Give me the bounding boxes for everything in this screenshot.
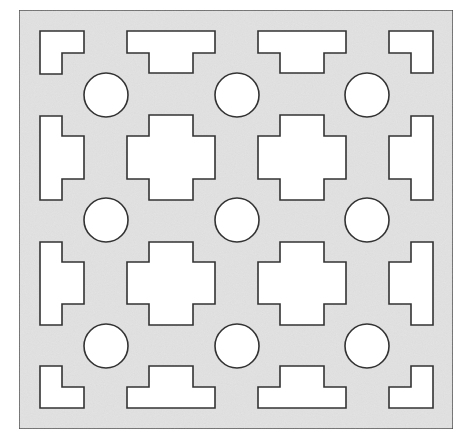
perforations xyxy=(40,31,433,408)
circle-cutout-4 xyxy=(84,198,128,242)
circle-cutout-7 xyxy=(84,324,128,368)
circle-cutout-9 xyxy=(345,324,389,368)
circle-cutout-6 xyxy=(345,198,389,242)
circle-cutout-3 xyxy=(345,73,389,117)
perforated-panel-diagram xyxy=(0,0,461,435)
circle-cutout-8 xyxy=(215,324,259,368)
circle-cutout-5 xyxy=(215,198,259,242)
circle-cutout-2 xyxy=(215,73,259,117)
circle-cutout-1 xyxy=(84,73,128,117)
